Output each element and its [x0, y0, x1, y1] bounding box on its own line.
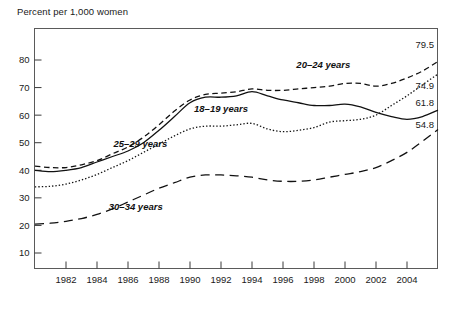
plot-frame	[35, 29, 438, 269]
y-tick-label: 80	[19, 54, 30, 65]
series-annotation: 18–19 years	[194, 103, 248, 114]
x-tick-label: 1996	[272, 274, 293, 285]
series-annotation: 30–34 years	[109, 201, 163, 212]
y-tick-label: 60	[19, 110, 30, 121]
series-annotation: 25–29 years	[112, 138, 167, 149]
end-value-label: 54.8	[416, 119, 435, 130]
end-value-label: 74.9	[416, 80, 435, 91]
x-tick-label: 1990	[179, 274, 200, 285]
x-tick-label: 2002	[365, 274, 386, 285]
x-tick-label: 1982	[55, 274, 76, 285]
series-line	[35, 129, 438, 224]
x-tick-label: 1998	[303, 274, 324, 285]
y-tick-label: 70	[19, 82, 30, 93]
x-tick-label: 1992	[210, 274, 231, 285]
end-value-label: 61.8	[416, 97, 435, 108]
x-tick-label: 1988	[148, 274, 169, 285]
x-tick-label: 1984	[86, 274, 107, 285]
y-tick-label: 40	[19, 165, 30, 176]
x-tick-label: 1986	[117, 274, 138, 285]
x-tick-label: 2004	[396, 274, 417, 285]
series-line	[35, 61, 438, 167]
y-tick-label: 30	[19, 192, 30, 203]
x-tick-label: 1994	[241, 274, 262, 285]
x-tick-label: 2000	[334, 274, 355, 285]
y-tick-label: 50	[19, 137, 30, 148]
y-tick-label: 10	[19, 247, 30, 258]
y-axis-ticks: 1020304050607080	[19, 54, 42, 258]
series-line	[35, 74, 438, 187]
series-annotation: 20–24 years	[295, 59, 350, 70]
x-axis-ticks: 1982198419861988199019921994199619982000…	[55, 262, 417, 285]
y-tick-label: 20	[19, 220, 30, 231]
series-lines	[35, 61, 438, 224]
chart-figure: Percent per 1,000 women 1020304050607080…	[0, 0, 454, 309]
end-value-label: 79.5	[416, 39, 435, 50]
chart-plot-area: 1020304050607080 19821984198619881990199…	[0, 0, 454, 309]
